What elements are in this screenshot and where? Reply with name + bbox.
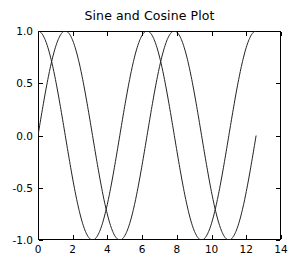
y-tick-mark xyxy=(39,240,43,241)
y-tick-label: -0.5 xyxy=(13,182,34,194)
y-tick-mark xyxy=(276,136,280,137)
y-tick-mark xyxy=(276,31,280,32)
x-tick-label: 14 xyxy=(274,243,287,255)
x-tick-mark xyxy=(142,32,143,36)
y-tick-label: 1.0 xyxy=(16,25,33,37)
x-tick-mark xyxy=(212,235,213,239)
x-tick-mark xyxy=(73,32,74,36)
x-tick-label: 4 xyxy=(104,243,111,255)
x-tick-label: 12 xyxy=(240,243,253,255)
y-tick-mark xyxy=(39,188,43,189)
x-tick-mark xyxy=(246,235,247,239)
y-tick-label: -1.0 xyxy=(13,234,34,246)
y-tick-mark xyxy=(39,31,43,32)
x-tick-mark xyxy=(73,235,74,239)
plot-area xyxy=(38,31,281,240)
x-tick-mark xyxy=(38,235,39,239)
x-tick-mark xyxy=(246,32,247,36)
chart-title: Sine and Cosine Plot xyxy=(0,8,299,23)
y-tick-mark xyxy=(276,240,280,241)
x-tick-mark xyxy=(281,235,282,239)
x-tick-mark xyxy=(38,32,39,36)
x-tick-mark xyxy=(142,235,143,239)
x-tick-label: 8 xyxy=(174,243,181,255)
x-tick-label: 6 xyxy=(139,243,146,255)
y-tick-mark xyxy=(39,136,43,137)
x-axis-tick-labels: 02468101214 xyxy=(38,243,281,259)
x-tick-mark xyxy=(177,235,178,239)
x-tick-mark xyxy=(281,32,282,36)
y-tick-mark xyxy=(276,83,280,84)
y-axis-tick-labels: -1.0-0.50.00.51.0 xyxy=(0,31,33,240)
curves-layer xyxy=(38,31,281,240)
y-tick-mark xyxy=(276,188,280,189)
x-tick-label: 2 xyxy=(69,243,76,255)
x-tick-mark xyxy=(177,32,178,36)
series-group xyxy=(38,31,256,240)
x-tick-label: 10 xyxy=(205,243,218,255)
y-tick-label: 0.0 xyxy=(16,130,33,142)
figure-canvas: Sine and Cosine Plot -1.0-0.50.00.51.0 0… xyxy=(0,0,299,267)
x-tick-mark xyxy=(107,32,108,36)
y-tick-label: 0.5 xyxy=(16,77,33,89)
x-tick-label: 0 xyxy=(35,243,42,255)
x-tick-mark xyxy=(212,32,213,36)
series-line-sine xyxy=(38,31,256,240)
x-tick-mark xyxy=(107,235,108,239)
y-tick-mark xyxy=(39,83,43,84)
